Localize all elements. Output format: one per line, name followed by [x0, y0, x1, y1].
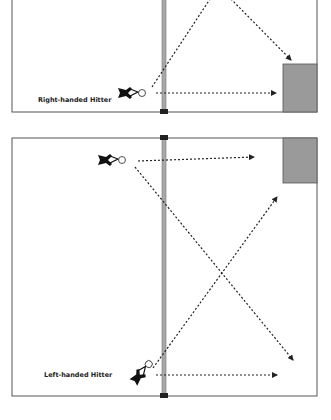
- left-handed-hitter-icon: [129, 358, 156, 387]
- trajectory-arrows: [135, 157, 293, 375]
- net-post-icon: [160, 393, 168, 398]
- arrow-line-cross-down: [135, 167, 293, 360]
- court-bottom-left-handed: Left-handed Hitter: [12, 135, 317, 398]
- target-zone: [283, 64, 317, 112]
- arrow-line-straight-top: [138, 157, 254, 161]
- court-top-right-handed: Right-handed Hitter: [12, 0, 317, 114]
- net-post-icon: [160, 135, 168, 140]
- arrow-line-cross: [152, 0, 212, 87]
- hitter-icon: [98, 154, 126, 166]
- hitter-icon: [118, 87, 146, 99]
- arrow-line-cross-return: [228, 0, 291, 60]
- hitter-label: Right-handed Hitter: [38, 96, 112, 104]
- arrow-line-cross-up: [153, 197, 277, 368]
- hitter-label: Left-handed Hitter: [44, 371, 113, 379]
- trajectory-arrows: [152, 0, 291, 93]
- net: [162, 138, 166, 396]
- net-post-icon: [160, 109, 168, 114]
- volleyball-hitting-diagram: Right-handed Hitter Left-handed Hitter: [0, 0, 331, 420]
- target-zone: [283, 138, 317, 183]
